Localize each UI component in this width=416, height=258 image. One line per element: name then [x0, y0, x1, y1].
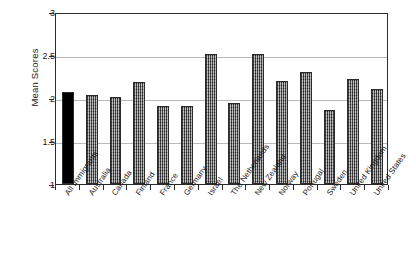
- x-tick-mark: [174, 185, 175, 190]
- y-tick-mark: [49, 99, 54, 100]
- gridline-y-2: [56, 100, 387, 101]
- bar-chart-figure: Mean Scores 11.522.53 All ImmigrantsAust…: [0, 0, 416, 258]
- x-tick-mark: [317, 185, 318, 190]
- x-tick-mark: [293, 185, 294, 190]
- x-tick-mark: [269, 185, 270, 190]
- gridline-y-1.5: [56, 143, 387, 144]
- y-tick-mark: [49, 142, 54, 143]
- bar-finland[interactable]: [133, 82, 145, 184]
- x-tick-mark: [198, 185, 199, 190]
- x-tick-mark: [388, 185, 389, 190]
- y-tick-mark: [49, 56, 54, 57]
- x-tick-mark: [150, 185, 151, 190]
- gridline-y-2.5: [56, 57, 387, 58]
- x-tick-mark: [222, 185, 223, 190]
- bar-canada[interactable]: [110, 97, 122, 184]
- bar-france[interactable]: [157, 106, 169, 184]
- y-tick-mark: [49, 185, 54, 186]
- plot-area: [55, 13, 388, 185]
- y-tick-mark: [49, 13, 54, 14]
- bar-the-netherlands[interactable]: [228, 103, 240, 184]
- bar-germany[interactable]: [181, 106, 193, 184]
- bar-united-states[interactable]: [371, 89, 383, 184]
- bar-australia[interactable]: [86, 95, 98, 184]
- bar-united-kingdom[interactable]: [347, 79, 359, 184]
- bar-all-immigrants[interactable]: [62, 92, 74, 184]
- x-tick-mark: [103, 185, 104, 190]
- x-tick-mark: [79, 185, 80, 190]
- x-tick-mark: [340, 185, 341, 190]
- x-tick-mark: [126, 185, 127, 190]
- bar-new-zealand[interactable]: [252, 54, 264, 184]
- bar-sweden[interactable]: [324, 110, 336, 184]
- bar-norway[interactable]: [276, 81, 288, 184]
- y-axis-ticks: 11.522.53: [10, 0, 55, 258]
- bar-israel[interactable]: [205, 54, 217, 184]
- x-tick-mark: [55, 185, 56, 190]
- bar-portugal[interactable]: [300, 72, 312, 184]
- x-tick-mark: [245, 185, 246, 190]
- x-axis-ticks: [55, 185, 388, 191]
- x-tick-mark: [364, 185, 365, 190]
